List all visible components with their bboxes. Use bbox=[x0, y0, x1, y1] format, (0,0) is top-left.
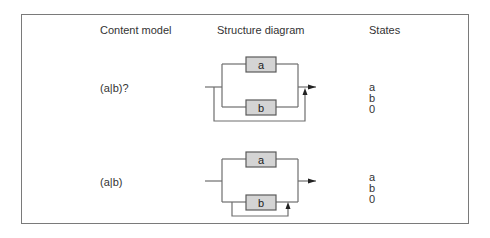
arrow-up-icon bbox=[286, 202, 291, 209]
arrow-up-icon bbox=[303, 88, 308, 95]
box-label: b bbox=[258, 102, 264, 114]
box-label: b bbox=[258, 197, 264, 209]
arrow-right-icon bbox=[308, 179, 316, 184]
structure-diagrams: a b a b bbox=[0, 0, 490, 238]
arrow-right-icon bbox=[308, 85, 316, 90]
box-label: a bbox=[258, 59, 265, 71]
box-label: a bbox=[258, 154, 265, 166]
